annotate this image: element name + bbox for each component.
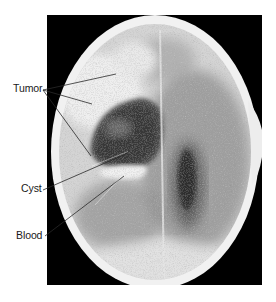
label-tumor: Tumor	[13, 83, 42, 94]
ct-scan-image	[0, 0, 276, 302]
ct-scan-figure: Tumor Cyst Blood	[0, 0, 276, 302]
label-blood: Blood	[16, 230, 42, 241]
label-cyst: Cyst	[21, 183, 42, 194]
